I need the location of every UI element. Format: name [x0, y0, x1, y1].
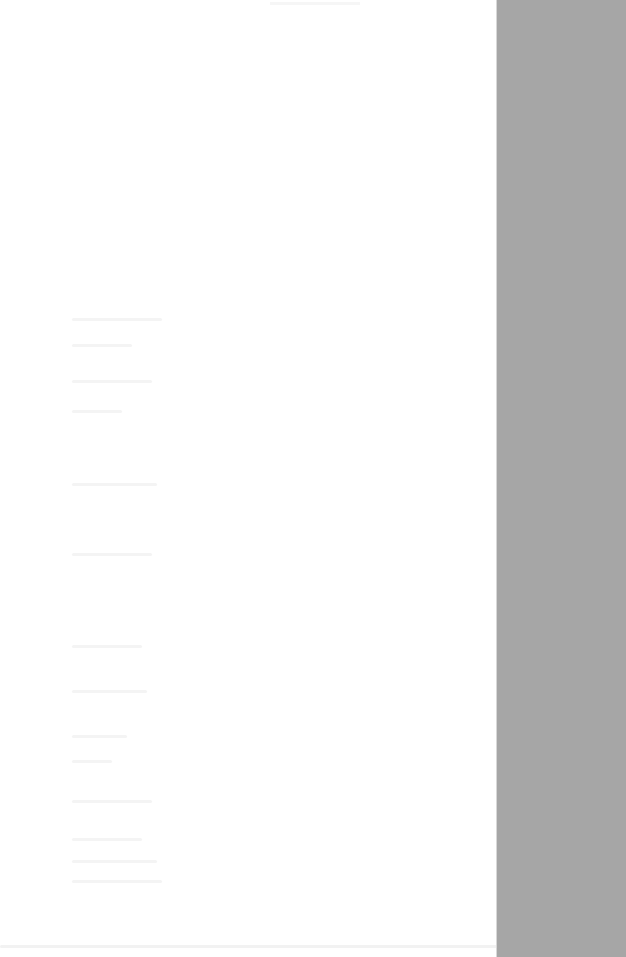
faded-text-line	[72, 690, 147, 693]
faded-text-line	[72, 800, 152, 803]
faded-text-line	[72, 553, 152, 556]
faded-text-line	[72, 760, 112, 763]
faded-text-line	[72, 645, 142, 648]
faded-text-line	[72, 860, 157, 863]
overlay-backdrop[interactable]	[497, 0, 626, 957]
faded-footer-strip	[0, 945, 497, 948]
faded-text-line	[72, 735, 127, 738]
faded-content-panel	[0, 0, 497, 957]
faded-text-line	[72, 318, 162, 321]
faded-text-line	[72, 344, 132, 347]
faded-text-line	[72, 380, 152, 383]
screen	[0, 0, 626, 957]
faded-text-line	[72, 483, 157, 486]
faded-header-text	[270, 2, 360, 5]
faded-text-line	[72, 838, 142, 841]
faded-text-line	[72, 410, 122, 413]
faded-text-line	[72, 880, 162, 883]
